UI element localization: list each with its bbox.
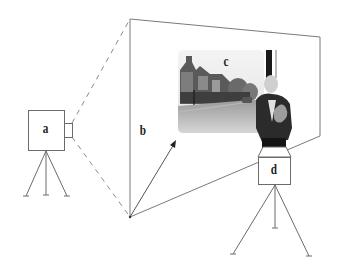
label-plane: b [140,124,146,138]
diagram-canvas: a b c d [0,0,340,274]
photograph [178,50,264,133]
apex-point [129,216,131,218]
camera [29,111,73,151]
camera-view-rays [72,19,130,217]
label-photo: c [224,55,229,69]
camera-tripod [23,151,70,196]
projector-tripod [230,185,312,256]
label-camera: a [43,122,49,136]
label-projector: d [271,163,277,177]
